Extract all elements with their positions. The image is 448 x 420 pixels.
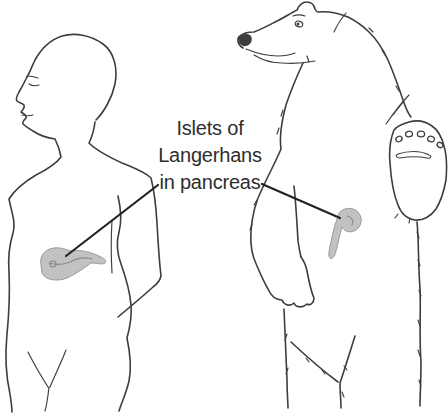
pancreas-label-line-1: Islets of — [133, 115, 287, 142]
pancreas-label-line-3: in pancreas — [133, 169, 287, 196]
bear-toe-pad-4 — [427, 135, 435, 142]
bear-fur-ticks — [250, 28, 421, 397]
human-pancreas — [41, 248, 106, 280]
bear-right-edge — [417, 222, 421, 406]
bear-jaw — [254, 55, 315, 63]
bear-figure — [238, 2, 447, 408]
pancreas-label-line-2: Langerhans — [133, 142, 287, 169]
bear-toe-pad-2 — [405, 131, 413, 138]
human-mouth — [22, 115, 33, 116]
bear-pupil — [297, 23, 300, 26]
bear-nose — [238, 34, 251, 46]
human-eyebrow — [27, 76, 38, 78]
bear-palm-pad — [396, 152, 430, 159]
bear-toe-pad-3 — [417, 131, 424, 137]
pancreas-label: Islets of Langerhans in pancreas — [133, 115, 287, 196]
bear-brow — [293, 15, 305, 16]
human-pubic-lines — [28, 350, 66, 411]
bear-raised-paw — [390, 121, 447, 220]
bear-head-crease — [334, 13, 346, 32]
illustration-canvas — [0, 0, 448, 420]
human-inner-arm-line — [111, 220, 112, 273]
bear-toe-pad-1 — [395, 135, 403, 143]
anatomy-illustration: Islets of Langerhans in pancreas — [0, 0, 448, 420]
human-outline-torso — [117, 196, 131, 411]
human-eye — [29, 84, 39, 86]
bear-wrist-lines — [386, 95, 409, 124]
human-outline-front — [6, 34, 116, 412]
human-figure — [6, 34, 161, 412]
bear-mouth — [246, 49, 295, 56]
bear-left-leg — [284, 309, 288, 408]
bear-inner-arm-line — [294, 186, 301, 257]
